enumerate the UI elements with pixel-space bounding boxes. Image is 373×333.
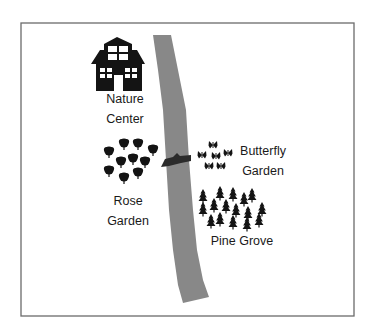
butterfly-icon xyxy=(212,152,221,160)
butterfly-icon xyxy=(198,151,207,159)
park-map xyxy=(0,0,373,333)
label-line: Pine Grove xyxy=(211,231,274,251)
label-pine-grove: Pine Grove xyxy=(211,231,274,251)
label-line: Center xyxy=(106,109,144,129)
butterfly-icon xyxy=(224,149,233,157)
label-butterfly-garden: Butterfly Garden xyxy=(240,141,286,181)
butterfly-icon xyxy=(205,162,214,170)
label-rose-garden: Rose Garden xyxy=(107,191,149,231)
label-nature-center: Nature Center xyxy=(106,89,144,129)
label-line: Rose xyxy=(107,191,149,211)
butterfly-icon xyxy=(209,141,218,149)
label-line: Nature xyxy=(106,89,144,109)
butterfly-icon xyxy=(217,162,226,170)
label-line: Butterfly xyxy=(240,141,286,161)
label-line: Garden xyxy=(240,161,286,181)
label-line: Garden xyxy=(107,211,149,231)
